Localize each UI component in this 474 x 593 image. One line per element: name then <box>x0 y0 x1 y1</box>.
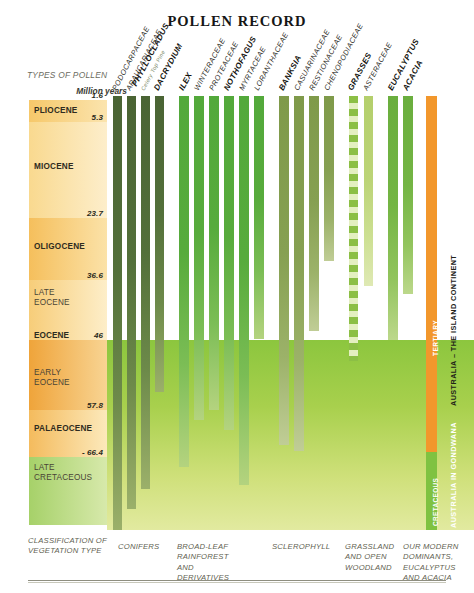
bar-nothofagus <box>224 96 234 430</box>
epoch-band-early-eocene: EARLYEOCENE <box>29 340 107 410</box>
age-tick-label: 1.6 <box>92 91 103 100</box>
baseline-rule-shadow <box>28 582 446 583</box>
epoch-name: MIOCENE <box>34 162 74 172</box>
gondwana-background-right <box>410 340 474 530</box>
epoch-band-late-cretaceous: LATECRETACEOUS <box>29 457 107 525</box>
tertiary-bar <box>426 96 437 452</box>
bar-loranthaceae <box>254 96 264 339</box>
eocene-divider-label: EOCENE <box>34 331 69 340</box>
age-tick-label: 57.8 <box>87 401 103 410</box>
classification-group-4: OUR MODERNDOMINANTS,EUCALYPTUSAND ACACIA <box>403 542 473 584</box>
bar-winteraceae <box>194 96 204 420</box>
pollen-record-figure: POLLEN RECORD TYPES OF POLLEN Million ye… <box>0 0 474 593</box>
bar-chenopodiaceae <box>324 96 334 261</box>
epoch-name: LATEEOCENE <box>34 288 70 307</box>
epoch-name: PALAEOCENE <box>34 424 92 434</box>
bar-asteraceae <box>364 96 373 286</box>
tertiary-label: TERTIARY <box>432 320 439 356</box>
bar-eucalyptus <box>388 96 398 340</box>
bar-proteaceae <box>209 96 219 410</box>
epoch-name: LATECRETACEOUS <box>34 463 92 482</box>
geological-timescale-axis: PLIOCENE1.6MIOCENE5.3OLIGOCENE23.7LATEEO… <box>29 100 107 525</box>
age-tick-label: 5.3 <box>92 113 103 122</box>
bar-banksia <box>279 96 289 445</box>
bar-casuarinaceae <box>294 96 304 451</box>
epoch-name: OLIGOCENE <box>34 242 85 252</box>
bar-phyllocladus <box>141 96 150 489</box>
age-tick-label: 36.6 <box>87 271 103 280</box>
baseline-rule <box>28 580 446 581</box>
bar-dacrydium <box>155 96 164 392</box>
island-continent-label: AUSTRALIA – THE ISLAND CONTINENT <box>449 255 458 406</box>
bar-grasses <box>349 96 358 361</box>
epoch-band-miocene: MIOCENE <box>29 122 107 218</box>
age-tick-label: - 66.4 <box>82 448 103 457</box>
cretaceous-label: CRETACEOUS <box>432 478 439 526</box>
gondwana-background-left <box>107 340 410 530</box>
epoch-name: PLIOCENE <box>34 106 77 116</box>
page-title: POLLEN RECORD <box>0 13 474 30</box>
classification-group-1: BROAD-LEAFRAINFOREST ANDDERIVATIVES <box>177 542 247 584</box>
column-header-ilex: ILEX <box>177 71 194 92</box>
classification-group-2: SCLEROPHYLL <box>272 542 342 552</box>
bar-myrtaceae <box>239 96 249 485</box>
age-tick-label: 23.7 <box>87 209 103 218</box>
bar-restionaceae <box>309 96 319 331</box>
types-of-pollen-label: TYPES OF POLLEN <box>27 70 127 80</box>
bar-araucariaceae <box>127 96 136 509</box>
epoch-name: EARLYEOCENE <box>34 368 70 387</box>
column-header-label: ILEX <box>177 71 194 92</box>
vegetation-classification-row: CLASSIFICATION OFVEGETATION TYPECONIFERS… <box>0 536 474 593</box>
bar-ilex <box>179 96 189 467</box>
age-tick-label: 46 <box>94 331 103 340</box>
bar-acacia <box>403 96 413 294</box>
gondwana-label: AUSTRALIA IN GONDWANA <box>449 422 458 528</box>
classification-heading: CLASSIFICATION OFVEGETATION TYPE <box>28 536 116 557</box>
bar-podocarpaceae <box>113 96 122 530</box>
plot-area: PODOCARPACEAEARAUCARIACEAEPHYLLOCLADUS C… <box>107 96 474 530</box>
